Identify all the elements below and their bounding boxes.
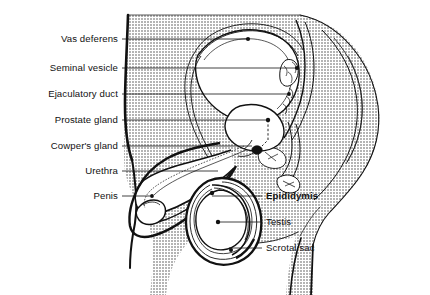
label-seminal-vesicle: Seminal vesicle	[50, 63, 118, 73]
dot-scrotal-sac	[229, 248, 233, 252]
dot-vas-deferens	[246, 37, 250, 41]
dot-ejaculatory-duct	[287, 92, 291, 96]
label-cowpers-gland: Cowper's gland	[51, 141, 118, 151]
dot-penis	[150, 194, 154, 198]
label-ejaculatory-duct: Ejaculatory duct	[48, 89, 118, 99]
label-vas-deferens: Vas deferens	[61, 34, 118, 44]
label-epididymis: Epididymis	[266, 191, 318, 201]
dot-epididymis	[210, 191, 214, 195]
dot-prostate-gland	[266, 118, 270, 122]
label-penis: Penis	[94, 191, 119, 201]
label-urethra: Urethra	[85, 166, 118, 176]
label-prostate-gland: Prostate gland	[55, 115, 118, 125]
scrotum-and-testis	[186, 178, 261, 265]
anatomy-figure: Vas deferens Seminal vesicle Ejaculatory…	[0, 0, 430, 295]
label-scrotal-sac: Scrotal sac	[266, 243, 315, 253]
dot-testis	[216, 220, 220, 224]
label-testis: Testis	[266, 217, 291, 227]
dot-seminal-vesicle	[295, 66, 299, 70]
